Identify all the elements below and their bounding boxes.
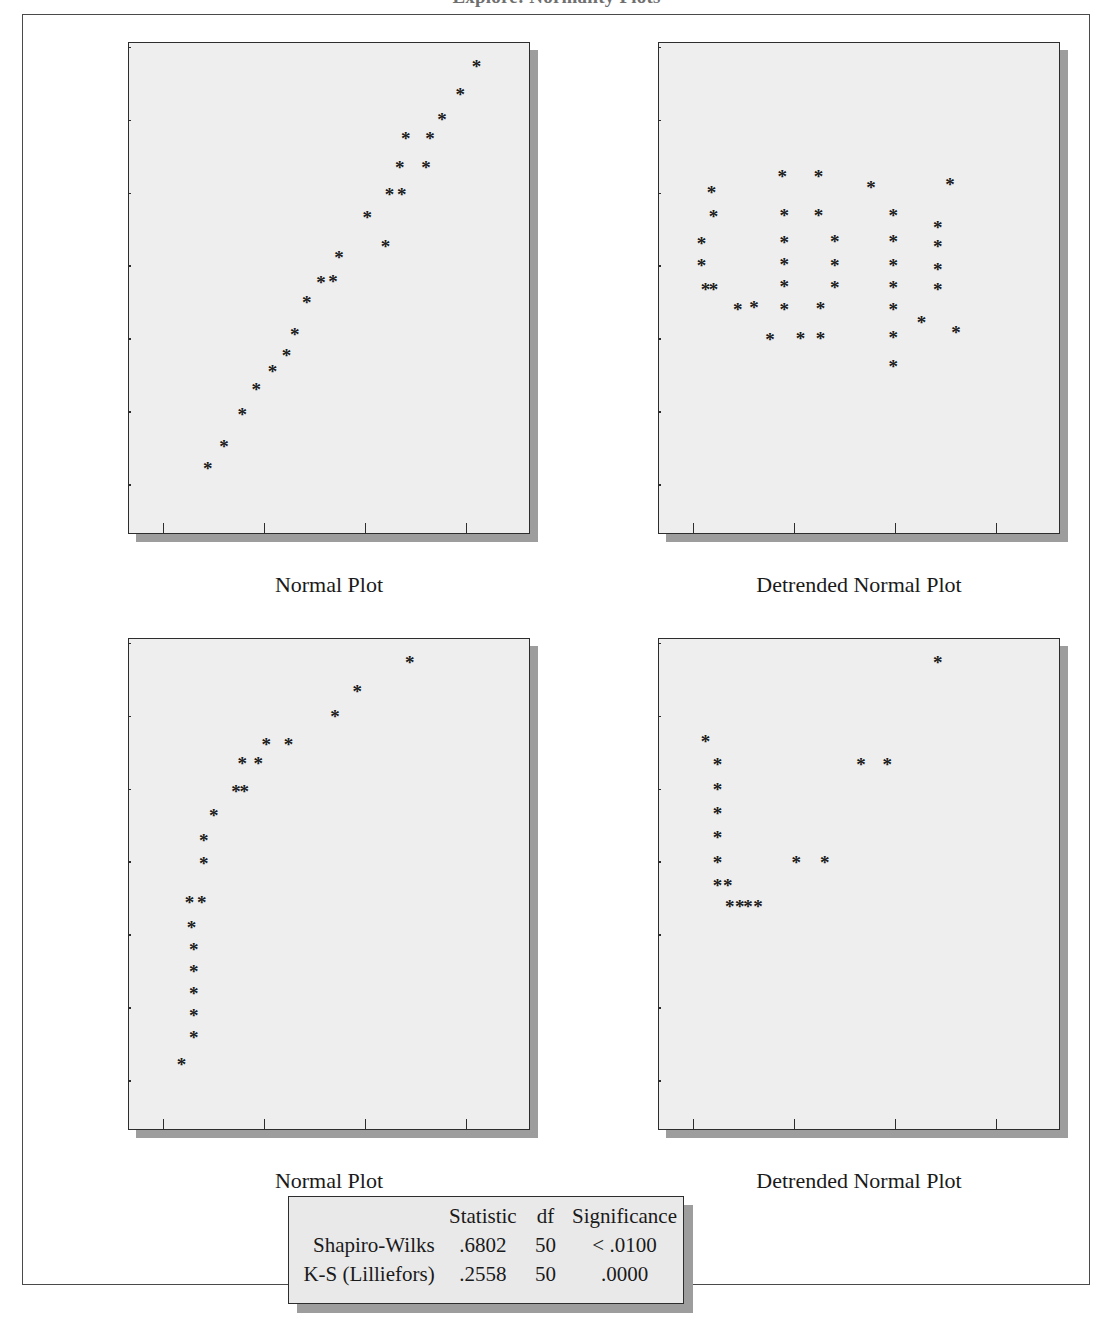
- data-point: *: [778, 235, 791, 250]
- data-point: *: [185, 920, 198, 935]
- data-point: *: [423, 131, 436, 146]
- data-point: *: [236, 407, 249, 422]
- y-tick-mark: [128, 1007, 131, 1009]
- y-tick-mark: [658, 861, 661, 863]
- cell-statistic-ks-lilliefors: .2558: [441, 1260, 525, 1289]
- y-tick-mark: [658, 411, 661, 413]
- data-point: *: [236, 756, 249, 771]
- data-point: *: [470, 59, 483, 74]
- data-point: *: [187, 942, 200, 957]
- data-point: *: [887, 258, 900, 273]
- x-tick-mark: [895, 1119, 897, 1130]
- data-point: *: [887, 208, 900, 223]
- data-point: *: [197, 833, 210, 848]
- y-tick-mark: [658, 789, 661, 791]
- x-tick-mark: [693, 523, 695, 534]
- x-tick-mark: [466, 523, 468, 534]
- data-point: *: [778, 257, 791, 272]
- y-tick-mark: [658, 120, 661, 122]
- plot-area-detrended-normal-plot-top: **************************************2.…: [658, 42, 1060, 534]
- stats-table-element: Statistic df Significance Shapiro-Wilks …: [289, 1197, 683, 1289]
- y-tick-mark: [658, 643, 661, 645]
- data-point: *: [887, 359, 900, 374]
- data-point: *: [197, 856, 210, 871]
- y-tick-mark: [128, 1080, 131, 1082]
- x-tick-mark: [264, 523, 266, 534]
- plot-canvas: *****************: [659, 639, 1059, 1129]
- cell-statistic-shapiro-wilks: .6802: [441, 1231, 525, 1260]
- y-tick-mark: [128, 193, 131, 195]
- cell-significance-ks-lilliefors: .0000: [566, 1260, 683, 1289]
- stats-table-head: Statistic df Significance: [289, 1197, 683, 1231]
- cell-significance-shapiro-wilks: < .0100: [566, 1231, 683, 1260]
- data-point: *: [314, 275, 327, 290]
- data-point: *: [865, 180, 878, 195]
- data-point: *: [395, 187, 408, 202]
- data-point: *: [814, 331, 827, 346]
- data-point: *: [931, 220, 944, 235]
- data-point: *: [403, 655, 416, 670]
- y-tick-mark: [658, 484, 661, 486]
- data-point: *: [711, 855, 724, 870]
- data-point: *: [814, 301, 827, 316]
- data-point: *: [361, 210, 374, 225]
- col-header-significance: Significance: [566, 1197, 683, 1231]
- y-tick-mark: [128, 861, 131, 863]
- y-tick-mark: [128, 338, 131, 340]
- data-point: *: [711, 806, 724, 821]
- data-point: *: [828, 258, 841, 273]
- data-point: *: [828, 280, 841, 295]
- data-point: *: [711, 830, 724, 845]
- y-tick-mark: [128, 120, 131, 122]
- x-tick-mark: [996, 523, 998, 534]
- data-point: *: [333, 250, 346, 265]
- data-point: *: [931, 262, 944, 277]
- table-header-row: Statistic df Significance: [289, 1197, 683, 1231]
- y-tick-mark: [128, 716, 131, 718]
- data-point: *: [711, 782, 724, 797]
- normality-tests-table: Statistic df Significance Shapiro-Wilks …: [288, 1196, 684, 1304]
- data-point: *: [818, 855, 831, 870]
- data-point: *: [812, 169, 825, 184]
- data-point: *: [217, 439, 230, 454]
- data-point: *: [794, 331, 807, 346]
- data-point: *: [187, 1008, 200, 1023]
- data-point: *: [887, 302, 900, 317]
- data-point: *: [707, 209, 720, 224]
- data-point: *: [778, 302, 791, 317]
- col-header-df: df: [525, 1197, 566, 1231]
- x-tick-mark: [365, 523, 367, 534]
- y-tick-mark: [658, 716, 661, 718]
- data-point: *: [828, 234, 841, 249]
- data-point: *: [887, 234, 900, 249]
- data-point: *: [699, 734, 712, 749]
- plot-canvas: *********************: [129, 639, 529, 1129]
- data-point: *: [379, 239, 392, 254]
- cell-df-shapiro-wilks: 50: [525, 1231, 566, 1260]
- y-tick-mark: [128, 934, 131, 936]
- plot-canvas: **************************************: [659, 43, 1059, 533]
- data-point: *: [733, 899, 746, 914]
- plot-area-normal-plot-bottom: *********************2.401.60.80.00-.80-…: [128, 638, 530, 1130]
- data-point: *: [187, 986, 200, 1001]
- data-point: *: [250, 382, 263, 397]
- data-point: *: [187, 964, 200, 979]
- data-point: *: [943, 177, 956, 192]
- x-tick-mark: [794, 1119, 796, 1130]
- row-label-ks-lilliefors: K-S (Lilliefors): [289, 1260, 441, 1289]
- y-tick-mark: [658, 193, 661, 195]
- data-point: *: [252, 756, 265, 771]
- data-point: *: [230, 784, 243, 799]
- data-point: *: [915, 315, 928, 330]
- x-axis-title: Detrended Normal Plot: [658, 1168, 1060, 1194]
- data-point: *: [747, 300, 760, 315]
- x-tick-mark: [163, 523, 165, 534]
- table-row: K-S (Lilliefors) .2558 50 .0000: [289, 1260, 683, 1289]
- data-point: *: [175, 1057, 188, 1072]
- data-point: *: [383, 187, 396, 202]
- x-tick-mark: [693, 1119, 695, 1130]
- data-point: *: [282, 737, 295, 752]
- data-point: *: [436, 112, 449, 127]
- data-point: *: [207, 808, 220, 823]
- plot-area-detrended-normal-plot-bottom: *****************2.401.60.80.00-.80-1.60…: [658, 638, 1060, 1130]
